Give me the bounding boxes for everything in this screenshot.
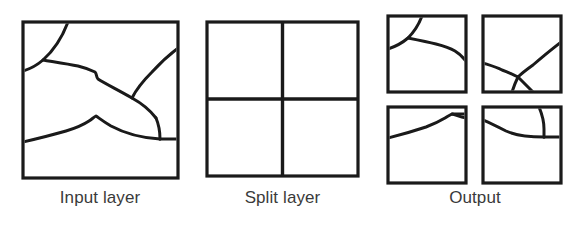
output-tile-bottom-left-frame (388, 107, 466, 183)
output-tile-top-left-frame (388, 16, 466, 92)
output-tile-bottom-right (483, 107, 561, 183)
output-label: Output (385, 188, 565, 208)
output-tile-top-right (483, 16, 561, 92)
input-layer-panel (23, 22, 178, 178)
output-panel (388, 16, 561, 183)
output-tile-bottom-right-frame (483, 107, 561, 183)
input-layer-label: Input layer (0, 188, 200, 208)
output-tile-bottom-left (388, 107, 466, 183)
split-layer-diagram: Input layer Split layer Output (0, 0, 578, 232)
input-layer-frame (23, 22, 178, 178)
output-tile-top-left (388, 16, 466, 92)
split-layer-panel (207, 22, 358, 176)
split-layer-label: Split layer (190, 188, 375, 208)
